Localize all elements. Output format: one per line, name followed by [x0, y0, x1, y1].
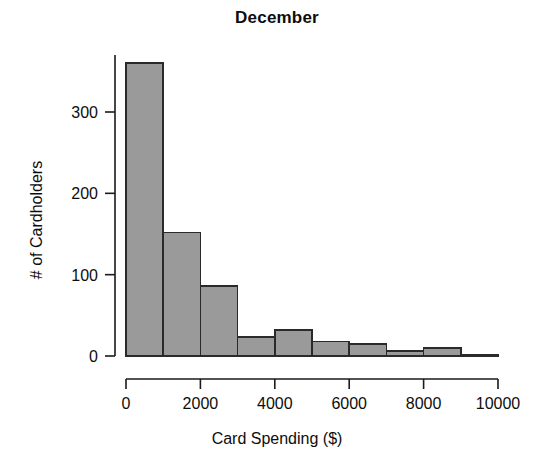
plot-area: 0100200300 0200040006000800010000 Card S…: [0, 0, 554, 470]
histogram-bar: [386, 351, 423, 356]
x-tick-label: 0: [122, 395, 131, 412]
histogram-bar: [238, 337, 275, 356]
histogram-bar: [312, 341, 349, 356]
x-tick-labels: 0200040006000800010000: [122, 395, 521, 412]
histogram-bar: [163, 232, 200, 356]
y-axis-title: # of Cardholders: [28, 161, 45, 279]
y-tick-label: 0: [89, 348, 98, 365]
x-axis: [126, 379, 498, 389]
y-tick-label: 100: [71, 267, 98, 284]
histogram-bar: [126, 63, 163, 356]
x-tick-label: 10000: [476, 395, 521, 412]
x-tick-label: 4000: [257, 395, 293, 412]
histogram-bar: [275, 330, 312, 356]
y-tick-label: 200: [71, 185, 98, 202]
histogram-figure: December 0100200300 02000400060008000100…: [0, 0, 554, 470]
bars-group: [126, 63, 498, 356]
y-axis: [105, 55, 115, 356]
y-tick-label: 300: [71, 104, 98, 121]
x-tick-label: 6000: [331, 395, 367, 412]
histogram-bar: [424, 348, 461, 356]
x-tick-label: 8000: [406, 395, 442, 412]
histogram-bar: [349, 344, 386, 356]
histogram-bar: [200, 286, 237, 356]
histogram-bar: [461, 354, 498, 356]
x-tick-label: 2000: [183, 395, 219, 412]
x-axis-title: Card Spending ($): [212, 430, 343, 447]
y-tick-labels: 0100200300: [71, 104, 98, 365]
